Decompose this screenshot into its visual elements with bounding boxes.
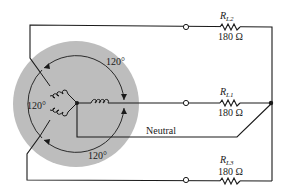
- terminals: [183, 24, 188, 182]
- rl2-symbol: RL2: [219, 10, 234, 23]
- terminal-line-3: [183, 177, 188, 182]
- load-neutral-node: [269, 101, 273, 105]
- rl1-value: 180 Ω: [218, 107, 243, 118]
- rl2-value: 180 Ω: [218, 31, 243, 42]
- angle-label-left: 120°: [27, 100, 46, 111]
- rl3-value: 180 Ω: [218, 166, 243, 177]
- neutral-label: Neutral: [146, 125, 176, 136]
- terminal-line-2: [183, 24, 188, 29]
- rl1-symbol: RL1: [219, 86, 234, 99]
- circuit-diagram: 120° 120° 120° Neutral RL2 180 Ω RL1 180…: [0, 0, 284, 194]
- angle-label-top: 120°: [106, 56, 125, 67]
- angle-label-bottom: 120°: [88, 150, 107, 161]
- terminal-line-1: [183, 100, 188, 105]
